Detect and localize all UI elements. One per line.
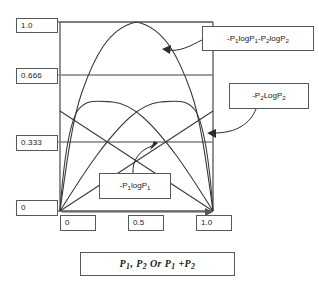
x-tick-label-05: 0.5 (128, 215, 164, 231)
x-tick-label-1: 1.0 (196, 215, 232, 231)
y-tick-label-0333: 0.333 (16, 135, 58, 151)
gridlines (60, 75, 213, 142)
y-tick-label-0666: 0.666 (16, 68, 58, 84)
y-tick-label-0: 0 (16, 200, 58, 216)
entropy-diagram: 1.0 0.666 0.333 0 0 0.5 1.0 -P1logP1-P2l… (0, 0, 319, 288)
x-axis-title-text: P1, P2 Or P1 +P2 (120, 259, 196, 269)
callout-p1-entropy: -P1logP1 (99, 173, 171, 199)
x-tick-label-0: 0 (60, 215, 96, 231)
leader-p2-entropy (207, 109, 256, 138)
leader-p1-entropy (133, 141, 158, 173)
callout-total-entropy: -P1logP1-P2logP2 (202, 26, 314, 51)
callout-p2-entropy-text: -P2LogP2 (252, 92, 286, 100)
x-axis-title: P1, P2 Or P1 +P2 (80, 252, 235, 276)
callout-p2-entropy: -P2LogP2 (229, 83, 309, 109)
callout-total-entropy-text: -P1logP1-P2logP2 (227, 35, 289, 43)
y-tick-label-1: 1.0 (16, 18, 58, 33)
callout-p1-entropy-text: -P1logP1 (120, 182, 151, 190)
leader-total-entropy (162, 40, 202, 54)
y-tick-marks (53, 22, 60, 211)
